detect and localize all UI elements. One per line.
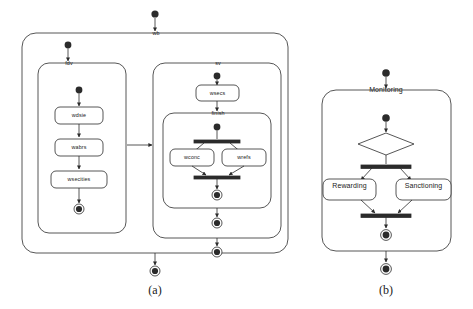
final-node-fdv-inner (76, 206, 82, 212)
initial-node-fdv (65, 42, 72, 49)
fork-bar-finish (194, 140, 240, 143)
decision-node (358, 133, 414, 155)
initial-node-monitoring (382, 69, 390, 77)
activity-rewarding (323, 179, 376, 200)
final-node-sv-inner (214, 220, 220, 226)
initial-node-fdv-inner (76, 87, 83, 94)
diagram-canvas (0, 0, 473, 309)
final-node-monitoring-inner (383, 232, 390, 239)
activity-wsecs (196, 85, 239, 101)
join-bar-monitoring (361, 214, 411, 217)
activity-wconc (170, 149, 214, 166)
activity-wrefs (222, 149, 266, 166)
fork-bar-monitoring (361, 165, 411, 168)
edge-fork-to-sanctioning (400, 168, 411, 180)
edge-wrefs-to-join (229, 166, 244, 175)
final-node-wb-inner (214, 249, 220, 255)
initial-node-sv (214, 73, 221, 80)
edge-fork-to-rewarding (361, 168, 372, 180)
activity-wsecities (51, 171, 107, 188)
final-node-outer-a-inner (152, 268, 158, 274)
initial-node-monitoring-inner (382, 114, 390, 122)
final-node-outer-b-inner (383, 266, 390, 273)
edge-rewarding-to-join (361, 200, 375, 213)
initial-node-wb (151, 10, 158, 17)
initial-node-finish (214, 124, 221, 131)
activity-sanctioning (396, 179, 451, 200)
caption-a: (a) (140, 283, 170, 298)
edge-wconc-to-join (192, 166, 206, 175)
final-node-finish-inner (214, 192, 220, 198)
caption-b: (b) (371, 283, 401, 298)
region-monitoring (322, 90, 451, 251)
activity-wdsie (55, 107, 103, 124)
join-bar-finish (194, 176, 240, 179)
edge-sanctioning-to-join (398, 200, 412, 213)
activity-wabrs (55, 139, 103, 156)
